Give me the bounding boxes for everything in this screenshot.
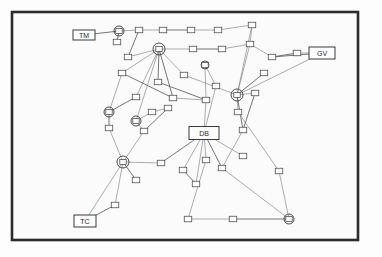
graph-node-box[interactable] <box>159 27 167 33</box>
diagram-frame <box>12 12 358 240</box>
graph-node-box[interactable] <box>187 27 195 33</box>
graph-canvas: TMGVTCDB <box>0 0 382 257</box>
graph-hub-box[interactable] <box>116 29 122 34</box>
graph-node-box[interactable] <box>179 167 187 173</box>
graph-node-box[interactable] <box>124 54 132 60</box>
graph-node-box[interactable] <box>135 27 143 33</box>
graph-node-box[interactable] <box>184 216 192 222</box>
graph-node-box[interactable] <box>246 41 254 47</box>
graph-node-box[interactable] <box>164 105 172 111</box>
graph-hub-box[interactable] <box>202 63 208 68</box>
graph-node-box[interactable] <box>293 50 301 56</box>
graph-node-box[interactable] <box>218 46 226 52</box>
graph-hub-box[interactable] <box>234 93 240 98</box>
graph-node-box[interactable] <box>157 160 165 166</box>
graph-node-box[interactable] <box>111 202 119 208</box>
graph-hub-box[interactable] <box>286 217 292 222</box>
graph-node-box[interactable] <box>192 181 200 187</box>
graph-node-box[interactable] <box>248 22 256 28</box>
graph-node-box[interactable] <box>212 83 220 89</box>
graph-node-box[interactable] <box>189 46 197 52</box>
network-diagram-figure: TMGVTCDB <box>0 0 382 257</box>
graph-hub-box[interactable] <box>133 119 139 124</box>
graph-node-box[interactable] <box>214 27 222 33</box>
graph-node-box[interactable] <box>234 109 242 115</box>
graph-node-box[interactable] <box>275 168 283 174</box>
labeled-node-text-gv: GV <box>317 50 327 57</box>
graph-node-box[interactable] <box>218 165 226 171</box>
graph-node-box[interactable] <box>154 79 162 85</box>
graph-node-box[interactable] <box>202 97 210 103</box>
graph-node-box[interactable] <box>229 216 237 222</box>
labeled-node-text-tm: TM <box>79 32 89 39</box>
graph-hub-box[interactable] <box>120 160 126 165</box>
graph-node-box[interactable] <box>268 54 276 60</box>
graph-node-box[interactable] <box>239 127 247 133</box>
graph-node-box[interactable] <box>148 109 156 115</box>
graph-hub-box[interactable] <box>156 47 162 52</box>
graph-node-box[interactable] <box>169 95 177 101</box>
graph-node-box[interactable] <box>132 94 140 100</box>
graph-node-box[interactable] <box>180 72 188 78</box>
graph-node-box[interactable] <box>251 90 259 96</box>
graph-node-box[interactable] <box>132 177 140 183</box>
graph-node-box[interactable] <box>140 128 148 134</box>
graph-hub-box[interactable] <box>106 110 112 115</box>
graph-node-box[interactable] <box>202 157 210 163</box>
graph-node-box[interactable] <box>113 39 121 45</box>
graph-node-box[interactable] <box>239 153 247 159</box>
graph-node-box[interactable] <box>118 70 126 76</box>
graph-node-box[interactable] <box>260 70 268 76</box>
labeled-node-text-db: DB <box>199 130 209 137</box>
labeled-node-text-tc: TC <box>80 218 89 225</box>
graph-node-box[interactable] <box>105 125 113 131</box>
